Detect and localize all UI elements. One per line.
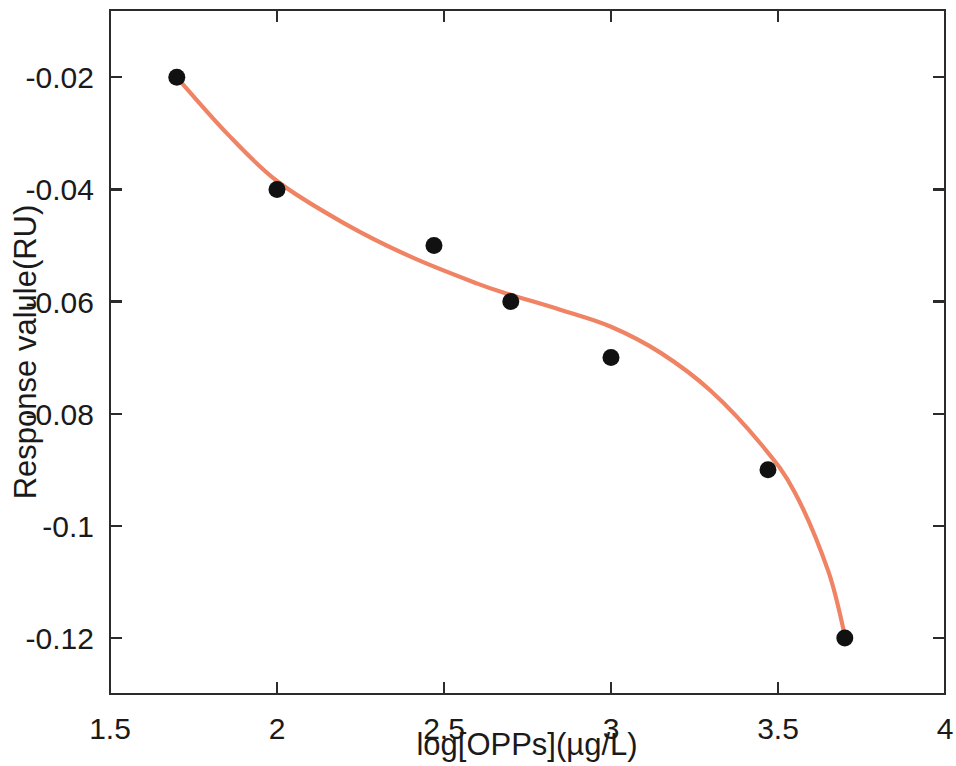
data-point-marker [759, 461, 776, 478]
data-point-markers [168, 69, 853, 647]
y-axis-tick-label: -0.02 [26, 61, 94, 94]
chart-figure: 1.522.533.54 -0.02-0.04-0.06-0.08-0.1-0.… [0, 0, 956, 766]
data-point-marker [603, 349, 620, 366]
x-axis-tick-label: 2 [269, 712, 286, 745]
scatter-plot-svg: 1.522.533.54 -0.02-0.04-0.06-0.08-0.1-0.… [0, 0, 956, 766]
x-axis-tick-marks-top [277, 10, 778, 22]
data-point-marker [502, 293, 519, 310]
y-axis-tick-label: -0.04 [26, 173, 94, 206]
x-axis-tick-label: 1.5 [89, 712, 131, 745]
y-axis-tick-marks [110, 77, 122, 638]
y-axis-tick-marks-right [933, 77, 945, 638]
y-axis-tick-label: -0.1 [42, 510, 94, 543]
fitted-curve [177, 77, 845, 635]
data-point-marker [269, 181, 286, 198]
plot-frame-box [110, 10, 945, 694]
x-axis-title: log[OPPs](µg/L) [416, 727, 637, 762]
x-axis-tick-label: 4 [937, 712, 954, 745]
data-point-marker [836, 629, 853, 646]
data-point-marker [425, 237, 442, 254]
x-axis-tick-label: 3.5 [757, 712, 799, 745]
y-axis-title: Response valule(RU) [8, 205, 43, 500]
y-axis-tick-label: -0.12 [26, 622, 94, 655]
data-point-marker [168, 69, 185, 86]
x-axis-tick-marks [277, 682, 778, 694]
